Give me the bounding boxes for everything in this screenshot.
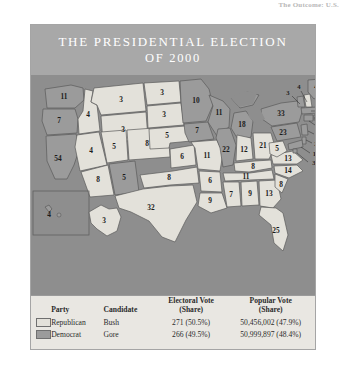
state-HI-island [57, 213, 61, 217]
state-label-WI: 11 [216, 108, 223, 117]
legend-swatch-republican [36, 318, 51, 327]
legend-header-candidate: Candidate [104, 296, 156, 316]
legend-popular-republican: 50,456,002 (47.9%) [226, 316, 315, 328]
legend-popular-democrat: 50,999,897 (48.4%) [226, 328, 315, 340]
state-label-NV: 4 [89, 146, 93, 155]
figure-title-line-1: THE PRESIDENTIAL ELECTION [58, 33, 287, 50]
state-label-OR: 7 [57, 116, 61, 125]
state-label-MI: 18 [238, 120, 246, 129]
state-label-MN: 10 [192, 96, 200, 105]
legend-party-democrat: Democrat [51, 328, 103, 340]
state-label-AR: 6 [208, 176, 212, 185]
running-header-text: The Outcome: U.S. [0, 0, 345, 12]
state-label-MD: 10 [313, 150, 315, 157]
state-label-LA: 9 [208, 196, 212, 205]
legend-swatch-header [31, 296, 51, 316]
state-label-WV: 5 [275, 144, 279, 153]
state-MA [301, 107, 315, 114]
legend-swatch-democrat [36, 330, 51, 339]
state-label-MS: 7 [229, 190, 233, 199]
state-label-KY: 8 [251, 162, 255, 171]
figure-title-line-2: OF 2000 [145, 50, 201, 67]
state-label-DC: 3 [312, 159, 315, 166]
legend-row-republican: Republican Bush 271 (50.5%) 50,456,002 (… [31, 316, 315, 328]
legend-swatch-democrat-cell [31, 328, 51, 340]
state-label-DE: 3 [314, 140, 315, 147]
state-label-NC: 14 [284, 166, 292, 175]
state-NJ [301, 124, 308, 135]
state-label-AK: 3 [102, 216, 106, 225]
legend-table: Party Candidate Electoral Vote (Share) P… [31, 296, 315, 340]
state-label-NY: 33 [277, 109, 285, 118]
legend-party-republican: Republican [51, 316, 103, 328]
state-label-TX: 32 [147, 203, 155, 212]
state-label-NM: 5 [122, 173, 126, 182]
map-legend: Party Candidate Electoral Vote (Share) P… [31, 295, 315, 349]
state-label-WY: 3 [121, 125, 125, 134]
state-label-UT: 5 [112, 142, 116, 151]
state-label-CA: 54 [54, 154, 62, 163]
state-RI [314, 115, 315, 120]
state-label-KS: 6 [180, 152, 184, 161]
state-label-AL: 9 [248, 189, 252, 198]
state-label-IN: 12 [240, 145, 248, 154]
state-label-TN: 11 [243, 172, 250, 181]
state-label-CO: 8 [145, 139, 149, 148]
state-label-IA: 7 [195, 126, 199, 135]
us-map-svg: .R{fill:#e3e1da;stroke:#5a5a5a;stroke-wi… [31, 75, 315, 297]
state-label-PA: 23 [279, 128, 287, 137]
legend-swatch-republican-cell [31, 316, 51, 328]
state-label-MO: 11 [204, 151, 211, 160]
legend-header-electoral-vote: Electoral Vote (Share) [156, 296, 226, 316]
state-label-HI: 4 [47, 210, 51, 219]
legend-header-popular-vote: Popular Vote (Share) [226, 296, 315, 316]
legend-candidate-bush: Bush [104, 316, 156, 328]
state-label-FL: 25 [272, 226, 280, 235]
state-label-AZ: 8 [96, 175, 100, 184]
legend-header-party: Party [51, 296, 103, 316]
state-label-ND: 3 [160, 88, 164, 97]
legend-row-democrat: Democrat Gore 266 (49.5%) 50,999,897 (48… [31, 328, 315, 340]
state-label-SC: 8 [279, 180, 283, 189]
legend-electoral-democrat: 266 (49.5%) [156, 328, 226, 340]
state-label-SD: 3 [162, 110, 166, 119]
state-label-OK: 8 [167, 173, 171, 182]
state-DC [293, 149, 297, 153]
legend-header-electoral-vote-line2: (Share) [156, 306, 226, 315]
state-label-IL: 22 [222, 145, 230, 154]
legend-header-popular-vote-line2: (Share) [226, 306, 315, 315]
state-label-ME: 4 [314, 82, 315, 91]
state-label-WA: 11 [61, 92, 68, 101]
legend-electoral-republican: 271 (50.5%) [156, 316, 226, 328]
state-label-GA: 13 [265, 189, 273, 198]
state-label-OH: 21 [259, 141, 267, 150]
election-map-figure: THE PRESIDENTIAL ELECTION OF 2000 .R{fil… [30, 24, 316, 350]
us-map: .R{fill:#e3e1da;stroke:#5a5a5a;stroke-wi… [31, 75, 315, 297]
figure-title-banner: THE PRESIDENTIAL ELECTION OF 2000 [31, 25, 315, 75]
state-label-VA: 13 [284, 154, 292, 163]
state-label-ID: 4 [86, 110, 90, 119]
state-label-NE: 5 [165, 131, 169, 140]
state-CT [304, 115, 313, 121]
legend-header-row: Party Candidate Electoral Vote (Share) P… [31, 296, 315, 316]
state-label-MT: 3 [119, 95, 123, 104]
legend-candidate-gore: Gore [104, 328, 156, 340]
